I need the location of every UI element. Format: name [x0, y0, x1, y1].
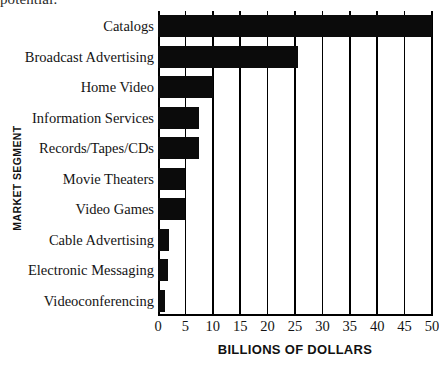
x-tick-label: 45 [397, 318, 412, 335]
x-tick-label: 30 [315, 318, 330, 335]
x-tick-label: 25 [288, 318, 303, 335]
x-tick-label: 20 [260, 318, 275, 335]
bar [158, 229, 169, 251]
bar [158, 290, 165, 312]
bar [158, 168, 185, 190]
category-label: Catalogs [18, 18, 154, 34]
bar [158, 76, 213, 98]
category-label: Records/Tapes/CDs [18, 140, 154, 156]
plot-area [158, 11, 432, 316]
bar [158, 15, 432, 37]
cutoff-body-text: potential. [0, 0, 57, 8]
bar [158, 137, 199, 159]
category-label: Information Services [18, 110, 154, 126]
x-tick-label: 35 [343, 318, 358, 335]
category-label: Home Video [18, 79, 154, 95]
category-label: Electronic Messaging [18, 262, 154, 278]
bar [158, 46, 298, 68]
x-axis-line [158, 314, 432, 316]
x-tick-label: 10 [206, 318, 221, 335]
x-tick-label: 0 [154, 318, 161, 335]
x-tick-label: 50 [425, 318, 439, 335]
category-label: Movie Theaters [18, 171, 154, 187]
category-label: Broadcast Advertising [18, 49, 154, 65]
bar [158, 107, 199, 129]
category-label: Cable Advertising [18, 232, 154, 248]
x-axis-tick-labels: 05101520253035404550 [158, 318, 432, 338]
x-tick-label: 15 [233, 318, 248, 335]
category-axis: CatalogsBroadcast AdvertisingHome VideoI… [18, 11, 156, 316]
x-tick-label: 5 [182, 318, 189, 335]
bar-series [158, 11, 432, 316]
category-label: Videoconferencing [18, 293, 154, 309]
category-label: Video Games [18, 201, 154, 217]
x-axis-title: BILLIONS OF DOLLARS [158, 342, 432, 357]
bar [158, 198, 185, 220]
bar [158, 259, 168, 281]
x-tick-label: 40 [370, 318, 385, 335]
